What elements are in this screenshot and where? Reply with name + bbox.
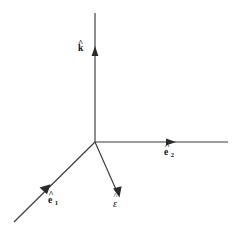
axis-label-e2-subscript: 2	[171, 151, 174, 158]
axis-label-e1-subscript: 1	[55, 199, 58, 206]
hat-accent-e2-icon: ^	[164, 142, 170, 151]
axis-label-k: k^	[78, 44, 83, 54]
hat-accent-epsilon-icon: ^	[113, 193, 119, 201]
hat-accent-k-icon: ^	[78, 39, 83, 48]
vector-axes-figure: k^ e^ 2 e^ 1 ε^	[0, 0, 236, 231]
axis-label-e1: e^ 1	[48, 196, 58, 206]
axis-line-epsilon	[95, 142, 118, 194]
arrowhead-k-icon	[92, 46, 99, 56]
hat-accent-e1-icon: ^	[48, 190, 54, 199]
axis-line-e1	[14, 142, 95, 222]
axis-label-e2: e^ 2	[164, 148, 174, 158]
axis-label-epsilon: ε^	[113, 199, 117, 209]
